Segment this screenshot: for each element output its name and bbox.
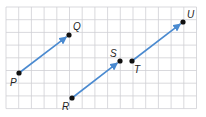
point-label-Q: Q bbox=[73, 21, 81, 32]
point-label-P: P bbox=[10, 77, 17, 88]
point-R bbox=[69, 95, 74, 100]
points: PQRSTU bbox=[10, 9, 195, 112]
point-label-T: T bbox=[134, 64, 141, 75]
vector-PQ bbox=[19, 37, 66, 73]
point-S bbox=[117, 58, 122, 63]
point-T bbox=[129, 58, 134, 63]
point-label-R: R bbox=[62, 101, 69, 112]
grid bbox=[6, 7, 197, 109]
point-label-S: S bbox=[110, 48, 117, 59]
vectors bbox=[19, 24, 180, 98]
point-U bbox=[180, 19, 185, 24]
point-Q bbox=[66, 32, 71, 37]
point-P bbox=[16, 70, 21, 75]
vector-diagram: PQRSTU bbox=[0, 0, 206, 117]
point-label-U: U bbox=[187, 9, 195, 20]
vector-TU bbox=[132, 24, 180, 61]
